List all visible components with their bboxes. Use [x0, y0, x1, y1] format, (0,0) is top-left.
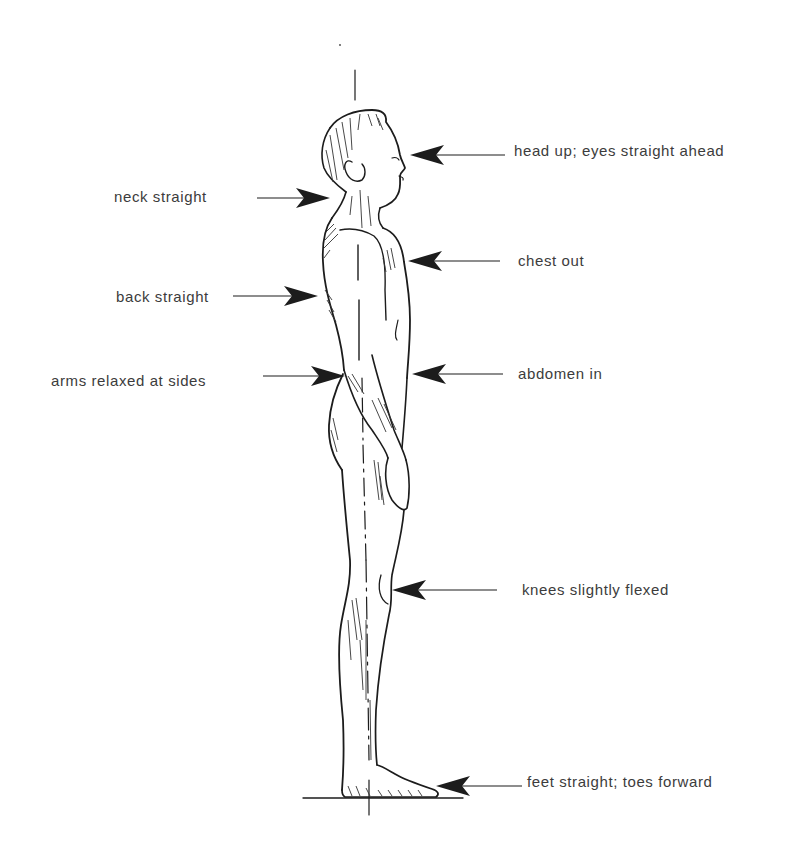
arrow-head-icon	[410, 145, 505, 165]
posture-diagram: head up; eyes straight ahead neck straig…	[0, 0, 795, 859]
label-head: head up; eyes straight ahead	[514, 142, 724, 160]
plumb-line	[339, 44, 369, 815]
label-back: back straight	[116, 288, 209, 306]
foot-drawing	[342, 765, 438, 797]
arrow-neck-icon	[257, 188, 330, 208]
arrow-feet-icon	[436, 776, 522, 796]
label-feet: feet straight; toes forward	[527, 773, 712, 791]
label-neck: neck straight	[114, 188, 207, 206]
head-drawing	[322, 110, 405, 208]
arrow-arms-icon	[263, 366, 345, 386]
arrow-chest-icon	[408, 251, 500, 271]
arrow-knees-icon	[392, 580, 497, 600]
hip-drawing	[329, 374, 407, 470]
neck-drawing	[332, 190, 383, 228]
arm-drawing	[344, 355, 409, 510]
label-arms: arms relaxed at sides	[51, 372, 206, 390]
legs-drawing	[339, 460, 404, 790]
label-chest: chest out	[518, 252, 584, 270]
figure-illustration	[0, 0, 795, 859]
label-abdomen: abdomen in	[518, 365, 602, 383]
torso-drawing	[323, 218, 410, 378]
arrow-back-icon	[233, 286, 318, 306]
label-knees: knees slightly flexed	[522, 581, 669, 599]
arrow-abdomen-icon	[412, 364, 503, 384]
